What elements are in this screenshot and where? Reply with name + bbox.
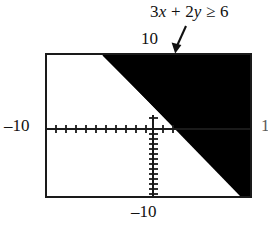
inequality-label: 3x + 2y ≥ 6 <box>150 2 229 22</box>
inequality-coefficient-3: 3 <box>150 2 159 21</box>
plot-canvas <box>47 55 250 196</box>
inequality-plus-two: + 2 <box>166 2 193 21</box>
y-max-label: 10 <box>141 29 158 49</box>
pointer-arrow-icon <box>165 22 195 56</box>
graph-figure: 3x + 2y ≥ 6 10 –10 –10 10 <box>0 0 268 231</box>
x-max-label: 10 <box>261 116 268 136</box>
plot-frame <box>45 53 252 198</box>
variable-y: y <box>194 2 202 21</box>
inequality-relation: ≥ 6 <box>202 2 229 21</box>
y-min-label: –10 <box>131 202 157 222</box>
x-min-label: –10 <box>4 116 30 136</box>
